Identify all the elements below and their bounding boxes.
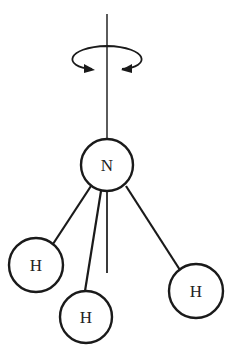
atom-label-h2: H: [80, 308, 92, 327]
atom-hydrogen-1: H: [9, 238, 63, 292]
bond-n-h1: [53, 186, 91, 244]
atom-hydrogen-3: H: [169, 264, 223, 318]
atom-label-h1: H: [30, 256, 42, 275]
atom-label-n: N: [101, 156, 113, 175]
atom-nitrogen: N: [81, 139, 133, 191]
atom-hydrogen-2: H: [60, 291, 112, 343]
ammonia-diagram: N H H H: [0, 0, 240, 357]
bond-n-h2: [85, 191, 101, 291]
atom-label-h3: H: [190, 282, 202, 301]
bond-n-h3: [126, 186, 180, 270]
